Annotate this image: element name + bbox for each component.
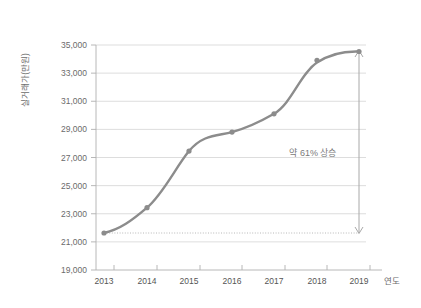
data-point-2017 (271, 111, 276, 116)
y-tick-label: 21,000 (61, 237, 87, 247)
x-tick-label-2018: 2018 (308, 276, 327, 286)
y-tick-label: 23,000 (61, 209, 87, 219)
line-chart: 35,000 33,000 31,000 29,000 27,000 25,00… (0, 0, 421, 308)
data-point-2019 (356, 49, 361, 54)
data-point-2015 (186, 149, 191, 154)
x-tick-label-2017: 2017 (265, 276, 284, 286)
y-tick-label: 31,000 (61, 96, 87, 106)
data-point-2014 (144, 205, 149, 210)
data-point-2013 (101, 230, 106, 235)
y-axis-title: 실거래가(만원) (20, 53, 30, 107)
x-tick-label-2016: 2016 (223, 276, 242, 286)
x-tick-labels: 2013 2014 2015 2016 2017 2018 2019 (95, 276, 369, 286)
x-tick-label-2019: 2019 (350, 276, 369, 286)
data-point-2016 (229, 130, 234, 135)
x-tick-label-2015: 2015 (180, 276, 199, 286)
y-tick-label: 33,000 (61, 68, 87, 78)
y-tick-label: 29,000 (61, 124, 87, 134)
y-tick-label: 27,000 (61, 153, 87, 163)
y-tick-label: 19,000 (61, 265, 87, 275)
growth-annotation-label: 약 61% 상승 (289, 147, 336, 158)
x-tick-label-2014: 2014 (138, 276, 157, 286)
y-tick-marks (91, 45, 96, 270)
chart-screenshot: 35,000 33,000 31,000 29,000 27,000 25,00… (0, 0, 421, 308)
y-tick-label: 35,000 (61, 40, 87, 50)
x-tick-label-2013: 2013 (95, 276, 114, 286)
y-tick-label: 25,000 (61, 181, 87, 191)
x-axis-title: 연도 (384, 276, 400, 286)
y-tick-labels: 35,000 33,000 31,000 29,000 27,000 25,00… (61, 40, 87, 275)
data-point-2018 (314, 58, 319, 63)
